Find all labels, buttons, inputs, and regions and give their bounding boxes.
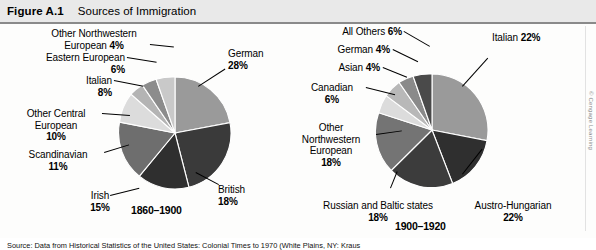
pie-chart-1900-1920: All Others 6% German 4% Asian 4% Canadia… — [290, 24, 596, 238]
right-edge-rule — [585, 26, 586, 231]
figure-body: Other Northwestern European 4% Eastern E… — [0, 24, 596, 238]
label-british-left: British 18% — [218, 184, 288, 207]
label-other-northwestern-european-right: Other Northwestern European 18% — [284, 122, 378, 168]
pie-1860-1900-graphic — [118, 76, 232, 190]
label-german-left: German 28% — [228, 48, 298, 71]
label-other-central-european-left: Other Central European 10% — [8, 108, 104, 143]
leader-eastern-european-left — [127, 57, 157, 63]
leader-all-others-right — [404, 31, 430, 47]
pie-1900-1920-svg — [375, 73, 489, 187]
source-note: Source: Data from Historical Statistics … — [7, 241, 589, 250]
label-eastern-european-left: Eastern European 6% — [20, 52, 125, 75]
leader-german-right — [393, 49, 419, 62]
label-other-northwestern-european-left: Other Northwestern European 4% — [38, 28, 150, 51]
leader-other-northwestern-european-left — [150, 44, 174, 48]
label-canadian-right: Canadian 6% — [290, 82, 374, 105]
caption-1860-1900: 1860–1900 — [131, 204, 182, 216]
label-scandinavian-left: Scandinavian 11% — [10, 149, 106, 172]
label-italian-left: Italian 8% — [40, 75, 112, 98]
label-austro-hungarian-right: Austro-Hungarian 22% — [452, 200, 574, 223]
label-asian-right: Asian 4% — [290, 62, 380, 74]
pie-1900-1920-graphic — [375, 73, 489, 187]
caption-1900-1920: 1900–1920 — [395, 220, 446, 232]
figure-header: Figure A.1 Sources of Immigration — [0, 0, 596, 22]
figure-title: Sources of Immigration — [78, 5, 196, 17]
label-italian-right: Italian 22% — [492, 32, 592, 44]
pie-chart-1860-1900: Other Northwestern European 4% Eastern E… — [0, 24, 300, 238]
pie-1860-1900-svg — [118, 76, 232, 190]
label-german-right: German 4% — [290, 44, 390, 56]
label-all-others-right: All Others 6% — [290, 26, 402, 38]
figure-container: Figure A.1 Sources of Immigration — [0, 0, 596, 250]
figure-number: Figure A.1 — [7, 5, 64, 17]
publisher-credit: © Cengage Learning — [588, 91, 594, 150]
